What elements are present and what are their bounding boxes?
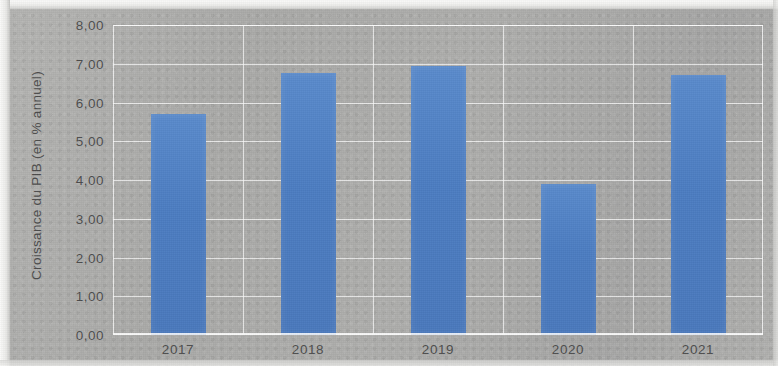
y-axis-tick-label: 6,00 [76,95,104,110]
bar [281,73,336,335]
x-axis-tick-label: 2018 [292,342,324,357]
y-axis-tick-label: 2,00 [76,250,104,265]
bar [411,66,466,335]
y-axis-tick-label: 8,00 [76,18,104,33]
y-axis-tick-label: 0,00 [76,328,104,343]
x-axis-tick-label: 2019 [422,342,454,357]
bar [671,75,726,335]
x-axis-baseline [113,333,763,335]
y-axis-tick-label: 3,00 [76,211,104,226]
y-axis-tick-label: 7,00 [76,56,104,71]
y-axis-tick-label: 1,00 [76,289,104,304]
x-axis-tick-label: 2017 [162,342,194,357]
bar [541,184,596,335]
bar [151,114,206,335]
plot-area [113,25,763,335]
x-axis-tick-label: 2020 [552,342,584,357]
y-axis-tick-label: 4,00 [76,173,104,188]
x-axis-tick-label: 2021 [682,342,714,357]
chart-screenshot: Croissance du PIB (en % annuel) 0,001,00… [0,0,778,366]
bar-chart: Croissance du PIB (en % annuel) 0,001,00… [0,0,778,366]
y-axis-tick-label: 5,00 [76,134,104,149]
y-axis-tick-labels: 0,001,002,003,004,005,006,007,008,00 [0,0,113,366]
x-axis-tick-labels: 20172018201920202021 [113,340,763,366]
bar-series [113,25,763,335]
